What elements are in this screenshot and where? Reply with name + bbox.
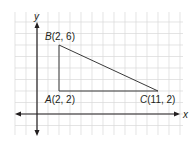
point-label-c: C(11, 2): [140, 94, 175, 105]
axes: x y: [15, 11, 189, 136]
x-axis-arrow-left: [15, 112, 21, 117]
coordinate-plane: x y A(2, 2)B(2, 6)C(11, 2): [0, 0, 195, 146]
x-axis-arrow-right: [174, 112, 180, 117]
x-axis-label: x: [182, 109, 189, 120]
y-axis-arrow-up: [35, 22, 40, 28]
grid-lines: [15, 12, 183, 135]
point-label-b: B(2, 6): [45, 31, 75, 42]
point-label-a: A(2, 2): [44, 94, 75, 105]
y-axis-label: y: [33, 11, 40, 22]
y-axis-arrow-down: [35, 130, 40, 136]
